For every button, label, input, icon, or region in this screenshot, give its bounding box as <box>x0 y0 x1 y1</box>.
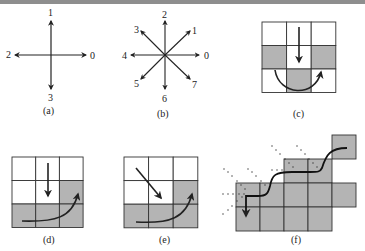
caption-a: (a) <box>43 105 54 117</box>
label-dir-1: 1 <box>192 25 197 36</box>
grid-cell-shaded <box>284 183 308 207</box>
label-dir-1: 1 <box>48 7 53 18</box>
label-dir-0: 0 <box>204 50 209 61</box>
caption-c: (c) <box>293 108 304 120</box>
caption-e: (e) <box>159 234 170 246</box>
grid-cell-shaded <box>332 135 356 159</box>
grid-cell <box>12 181 36 205</box>
label-dir-4: 4 <box>122 50 127 61</box>
label-dir-0: 0 <box>90 50 95 61</box>
figure-canvas: 0 1 2 3 (a) 0 1 2 3 4 5 6 7 (b) (c) <box>0 0 365 251</box>
grid-e <box>124 157 198 228</box>
grid-cell-shaded <box>262 46 287 70</box>
label-dir-3: 3 <box>48 92 53 103</box>
panel-c: (c) <box>262 22 336 120</box>
caption-b: (b) <box>157 108 169 120</box>
grid-cell-shaded <box>149 204 174 228</box>
panel-e: (e) <box>124 157 198 246</box>
grid-cell <box>311 69 336 93</box>
grid-cell-shaded <box>332 183 356 207</box>
label-dir-3: 3 <box>134 24 139 35</box>
arrow-dir-5 <box>141 55 165 79</box>
grid-cell <box>311 22 336 46</box>
arrow-dir-3 <box>141 31 165 55</box>
grid-cell-shaded <box>173 181 198 205</box>
grid-cell-shaded <box>59 181 83 205</box>
arrow-dir-1 <box>165 31 190 55</box>
grid-cell <box>262 22 287 46</box>
grid-cell-shaded <box>12 204 36 228</box>
caption-d: (d) <box>43 234 55 246</box>
panel-d: (d) <box>12 157 83 246</box>
label-dir-2: 2 <box>6 49 11 60</box>
caption-f: (f) <box>291 234 301 246</box>
grid-cell <box>262 69 287 93</box>
label-dir-6: 6 <box>162 93 167 104</box>
grid-cell-shaded <box>124 204 149 228</box>
grid-cell-shaded <box>311 46 336 70</box>
grid-cell <box>124 181 149 205</box>
grid-cell-shaded <box>236 183 260 207</box>
panel-f: (f) <box>222 135 356 246</box>
grid-cell-shaded <box>308 207 332 231</box>
label-dir-2: 2 <box>162 9 167 20</box>
grid-cell-shaded <box>36 204 60 228</box>
grid-cell <box>59 157 83 181</box>
grid-cell <box>12 157 36 181</box>
grid-cell-shaded <box>236 207 260 231</box>
grid-cell-shaded <box>284 207 308 231</box>
grid-cell <box>149 157 174 181</box>
panel-b: 0 1 2 3 4 5 6 7 (b) <box>122 9 209 120</box>
grid-cell-shaded <box>284 159 308 183</box>
grid-cell <box>173 157 198 181</box>
grid-cell-shaded <box>308 183 332 207</box>
label-dir-5: 5 <box>134 78 139 89</box>
arrow-dir-7 <box>165 55 190 79</box>
grid-cell-shaded <box>260 207 284 231</box>
panel-a: 0 1 2 3 (a) <box>6 7 95 117</box>
label-dir-7: 7 <box>192 79 197 90</box>
grid-cell <box>149 181 174 205</box>
